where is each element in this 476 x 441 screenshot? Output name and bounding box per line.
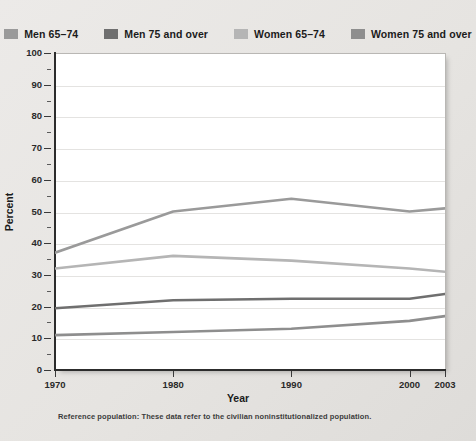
- y-tick-50: [44, 212, 51, 213]
- legend-label-men-75-over: Men 75 and over: [124, 28, 208, 40]
- legend-swatch-men-75-over: [104, 29, 118, 39]
- y-tick-0: [44, 370, 51, 371]
- x-tick-label-2000: 2000: [399, 379, 420, 390]
- x-tick-label-1970: 1970: [44, 379, 65, 390]
- x-tick-1980: [173, 371, 174, 377]
- series-line-women-75-and-over: [55, 316, 445, 335]
- legend-item-women-65-74: Women 65–74: [234, 28, 325, 40]
- y-tick-70: [44, 148, 51, 149]
- x-tick-label-2003: 2003: [434, 379, 455, 390]
- legend-swatch-women-75-over: [351, 29, 365, 39]
- y-tick-label-50: 50: [14, 206, 42, 217]
- y-tick-minor-65: [47, 164, 51, 165]
- chart-legend: Men 65–74 Men 75 and over Women 65–74 Wo…: [0, 26, 476, 42]
- y-tick-30: [44, 275, 51, 276]
- x-tick-label-1980: 1980: [163, 379, 184, 390]
- y-tick-100: [44, 53, 51, 54]
- y-tick-label-90: 90: [14, 79, 42, 90]
- legend-item-men-75-over: Men 75 and over: [104, 28, 208, 40]
- y-tick-minor-45: [47, 227, 51, 228]
- y-tick-label-100: 100: [14, 47, 42, 58]
- series-lines: [55, 53, 445, 370]
- series-line-men-75-and-over: [55, 294, 445, 308]
- chart-figure: Men 65–74 Men 75 and over Women 65–74 Wo…: [0, 0, 476, 441]
- y-tick-label-40: 40: [14, 237, 42, 248]
- series-line-women-65-74: [55, 256, 445, 272]
- y-tick-label-70: 70: [14, 142, 42, 153]
- x-tick-2003: [445, 371, 446, 377]
- legend-label-women-75-over: Women 75 and over: [371, 28, 472, 40]
- x-axis-title: Year: [0, 392, 476, 404]
- series-line-men-65-74: [55, 199, 445, 253]
- y-tick-minor-85: [47, 101, 51, 102]
- y-tick-minor-25: [47, 291, 51, 292]
- y-tick-label-20: 20: [14, 301, 42, 312]
- y-tick-label-80: 80: [14, 110, 42, 121]
- legend-swatch-men-65-74: [4, 29, 18, 39]
- y-tick-minor-95: [47, 69, 51, 70]
- y-tick-minor-55: [47, 196, 51, 197]
- x-tick-2000: [410, 371, 411, 377]
- legend-label-men-65-74: Men 65–74: [24, 28, 78, 40]
- y-tick-minor-15: [47, 322, 51, 323]
- y-tick-label-10: 10: [14, 332, 42, 343]
- x-tick-1990: [291, 371, 292, 377]
- y-tick-label-60: 60: [14, 174, 42, 185]
- y-tick-90: [44, 85, 51, 86]
- y-tick-minor-35: [47, 259, 51, 260]
- legend-item-men-65-74: Men 65–74: [4, 28, 78, 40]
- legend-label-women-65-74: Women 65–74: [254, 28, 325, 40]
- y-tick-80: [44, 116, 51, 117]
- y-tick-label-0: 0: [14, 364, 42, 375]
- footnote: Reference population: These data refer t…: [58, 412, 458, 421]
- y-tick-40: [44, 243, 51, 244]
- y-tick-minor-75: [47, 132, 51, 133]
- y-tick-60: [44, 180, 51, 181]
- y-tick-minor-5: [47, 354, 51, 355]
- legend-swatch-women-65-74: [234, 29, 248, 39]
- y-tick-20: [44, 307, 51, 308]
- y-tick-10: [44, 338, 51, 339]
- legend-item-women-75-over: Women 75 and over: [351, 28, 472, 40]
- x-tick-1970: [55, 371, 56, 377]
- x-tick-label-1990: 1990: [281, 379, 302, 390]
- y-tick-label-30: 30: [14, 269, 42, 280]
